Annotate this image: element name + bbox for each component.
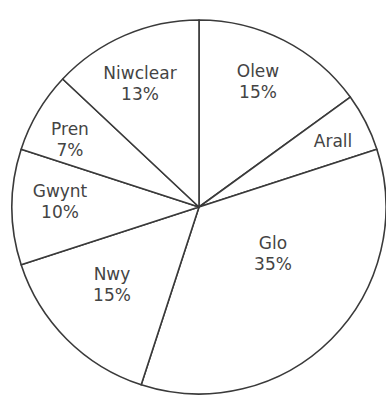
slice-percent: 35% [254,254,292,275]
slice-name: Arall [314,131,352,152]
slice-label-gwynt: Gwynt10% [33,181,88,223]
slice-name: Niwclear [103,63,176,84]
pie-chart: Olew15%ArallGlo35%Nwy15%Gwynt10%Pren7%Ni… [0,0,386,407]
slice-percent: 13% [103,84,176,105]
slice-label-olew: Olew15% [237,61,279,103]
slice-name: Olew [237,61,279,82]
slice-percent: 15% [93,285,131,306]
slice-label-niwclear: Niwclear13% [103,63,176,105]
slice-label-glo: Glo35% [254,233,292,275]
slice-name: Nwy [93,264,131,285]
slice-percent: 10% [33,202,88,223]
slice-label-arall: Arall [314,131,352,152]
slice-percent: 7% [51,140,89,161]
slice-name: Gwynt [33,181,88,202]
slice-name: Glo [254,233,292,254]
slice-label-pren: Pren7% [51,119,89,161]
slice-name: Pren [51,119,89,140]
slice-percent: 15% [237,82,279,103]
slice-label-nwy: Nwy15% [93,264,131,306]
